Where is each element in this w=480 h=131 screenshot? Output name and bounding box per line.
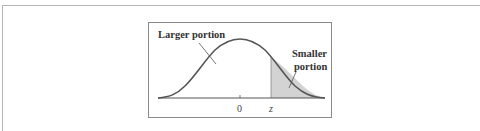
normal-curve-diagram: Larger portion Smaller portion 0 z [0, 0, 480, 131]
smaller-portion-label-line1: Smaller [292, 48, 327, 59]
tick-label-z: z [268, 103, 273, 114]
smaller-portion-label-line2: portion [294, 61, 327, 72]
larger-portion-label: Larger portion [158, 29, 225, 40]
tick-label-zero: 0 [237, 103, 242, 114]
larger-portion-leader [199, 43, 216, 64]
